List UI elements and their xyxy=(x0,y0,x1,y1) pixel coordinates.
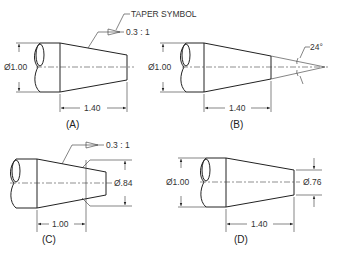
diameter-small-d: Ø.76 xyxy=(303,177,322,187)
diameter-large-d: Ø1.00 xyxy=(166,177,189,187)
taper-c: 0.3 : 1 xyxy=(106,140,130,150)
diameter-a: Ø1.00 xyxy=(4,62,27,72)
length-c: 1.00 xyxy=(52,219,69,229)
diameter-b: Ø1.00 xyxy=(148,62,171,72)
length-d: 1.40 xyxy=(251,219,268,229)
label-a: (A) xyxy=(66,119,79,130)
panel-d: Ø1.00 Ø.76 1.40 (D) xyxy=(166,158,322,245)
taper-symbol-callout: TAPER SYMBOL xyxy=(131,9,197,19)
panel-b: 24° Ø1.00 1.40 (B) xyxy=(148,42,328,130)
diameter-c: Ø.84 xyxy=(114,178,133,188)
angle-b: 24° xyxy=(310,42,323,52)
taper-a: 0.3 : 1 xyxy=(126,27,150,37)
panel-c: Ø.84 1.00 0.3 : 1 (C) xyxy=(10,140,133,245)
label-c: (C) xyxy=(42,234,56,245)
length-a: 1.40 xyxy=(84,103,101,113)
label-b: (B) xyxy=(230,119,243,130)
label-d: (D) xyxy=(234,234,248,245)
length-b: 1.40 xyxy=(229,103,246,113)
